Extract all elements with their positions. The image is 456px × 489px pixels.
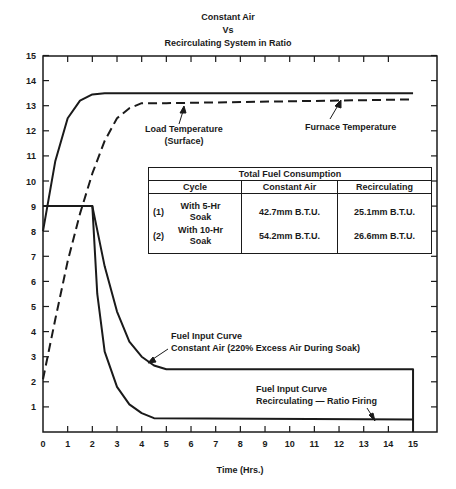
table-cell: 26.6mm B.T.U. [338, 224, 432, 254]
x-tick-label: 5 [164, 439, 169, 449]
x-tick-label: 12 [334, 439, 344, 449]
y-tick-label: 2 [31, 377, 36, 387]
x-tick-label: 10 [285, 439, 295, 449]
x-tick-label: 2 [90, 439, 95, 449]
table-cell: 42.7mm B.T.U. [242, 194, 338, 224]
table-row: (2)With 10-HrSoak 54.2mm B.T.U. 26.6mm B… [149, 224, 432, 254]
x-tick-label: 14 [383, 439, 393, 449]
x-tick-label: 9 [263, 439, 268, 449]
annotation-furnace-temperature: Furnace Temperature [305, 121, 396, 133]
x-tick-label: 11 [310, 439, 320, 449]
x-tick-label: 6 [189, 439, 194, 449]
y-tick-label: 13 [26, 101, 36, 111]
table-cell: 25.1mm B.T.U. [338, 194, 432, 224]
y-tick-label: 7 [31, 252, 36, 262]
x-tick-label: 7 [213, 439, 218, 449]
table-header-recirculating: Recirculating [338, 181, 432, 194]
x-tick-label: 1 [65, 439, 70, 449]
y-tick-label: 15 [26, 51, 36, 61]
x-tick-label: 3 [115, 439, 120, 449]
table-header-cycle: Cycle [149, 181, 242, 194]
table-header-constant-air: Constant Air [242, 181, 338, 194]
annotation-load-temperature: Load Temperature (Surface) [145, 123, 223, 147]
y-tick-label: 9 [31, 202, 36, 212]
annotation-arrows [148, 100, 375, 421]
y-tick-label: 14 [26, 76, 36, 86]
annotation-fuel-constant-air: Fuel Input Curve Constant Air (220% Exce… [171, 330, 360, 354]
x-tick-label: 8 [238, 439, 243, 449]
x-axis-label: Time (Hrs.) [217, 465, 264, 475]
table-cell: 54.2mm B.T.U. [242, 224, 338, 254]
annotation-fuel-recirculating: Fuel Input Curve Recirculating — Ratio F… [256, 383, 377, 407]
table-row: (1)With 5-HrSoak 42.7mm B.T.U. 25.1mm B.… [149, 194, 432, 224]
y-tick-label: 4 [31, 327, 36, 337]
series-group [43, 93, 413, 432]
y-tick-label: 10 [26, 177, 36, 187]
x-tick-label: 13 [359, 439, 369, 449]
x-tick-label: 4 [139, 439, 144, 449]
fuel-consumption-table: Total Fuel Consumption Cycle Constant Ai… [148, 167, 432, 254]
y-tick-label: 5 [31, 302, 36, 312]
x-tick-label: 15 [408, 439, 418, 449]
y-tick-label: 8 [31, 227, 36, 237]
y-tick-label: 1 [31, 402, 36, 412]
y-tick-label: 12 [26, 126, 36, 136]
x-tick-label: 0 [40, 439, 45, 449]
table-title: Total Fuel Consumption [149, 168, 432, 181]
y-tick-label: 6 [31, 277, 36, 287]
y-tick-label: 3 [31, 352, 36, 362]
y-tick-label: 11 [26, 151, 36, 161]
